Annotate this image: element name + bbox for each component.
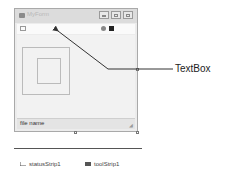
tray-item-toolstrip[interactable]: toolStrip1 [85, 161, 119, 167]
resize-handle-corner[interactable] [136, 131, 139, 134]
tray-item-label: statusStrip1 [29, 161, 61, 167]
toolstrip-icon [85, 162, 91, 166]
tool-strip[interactable] [17, 24, 135, 34]
stop-icon[interactable] [109, 26, 114, 31]
tray-item-label: toolStrip1 [94, 161, 119, 167]
status-label: file name [20, 120, 44, 126]
outer-panel[interactable] [22, 47, 70, 95]
maximize-icon [114, 14, 118, 17]
resize-handle-right[interactable] [136, 68, 139, 71]
minimize-button[interactable] [99, 11, 109, 19]
textbox-callout-label: TextBox [175, 63, 211, 74]
designer-form[interactable]: MyForm file name ◢ [14, 8, 138, 132]
open-icon[interactable] [20, 26, 26, 31]
status-strip[interactable]: file name ◢ [17, 118, 135, 129]
minimize-icon [102, 15, 106, 17]
inner-panel[interactable] [37, 58, 61, 84]
form-title: MyForm [27, 11, 49, 17]
close-icon [126, 14, 130, 17]
attach-icon[interactable] [101, 26, 106, 31]
resize-handle-bottom[interactable] [74, 131, 77, 134]
maximize-button[interactable] [111, 11, 121, 19]
tray-divider [14, 148, 142, 149]
tray-item-statusstrip[interactable]: statusStrip1 [20, 161, 61, 167]
form-client-area [17, 35, 135, 118]
resize-grip-icon[interactable]: ◢ [129, 122, 133, 128]
title-bar[interactable]: MyForm [15, 9, 137, 23]
statusstrip-icon [20, 162, 26, 166]
form-icon [19, 13, 25, 18]
close-button[interactable] [123, 11, 133, 19]
